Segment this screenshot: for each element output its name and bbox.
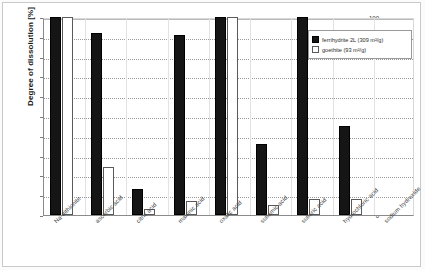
bar-group <box>209 19 250 215</box>
bar <box>62 17 73 215</box>
y-axis-title: Degree of dissolution [%] <box>26 0 35 137</box>
legend-label-goethite: goethite (93 m²/g) <box>322 47 366 53</box>
bar <box>132 189 143 215</box>
legend-item: ferrihydrite 2L (309 m²/g) <box>312 35 408 44</box>
bar <box>227 17 238 215</box>
chart-legend: ferrihydrite 2L (309 m²/g) goethite (93 … <box>308 30 412 59</box>
bar <box>256 144 267 215</box>
legend-swatch-goethite <box>312 46 319 53</box>
legend-label-ferrihydrite: ferrihydrite 2L (309 m²/g) <box>322 37 383 43</box>
chart-root: Degree of dissolution [%] 01020304050607… <box>0 0 425 270</box>
bar <box>339 126 350 215</box>
bar <box>50 17 61 215</box>
bar-group <box>85 19 126 215</box>
y-tick-mark <box>40 216 43 217</box>
bar <box>174 35 185 215</box>
bar-group <box>44 19 85 215</box>
bar <box>297 17 308 215</box>
bar-group <box>168 19 209 215</box>
legend-swatch-ferrihydrite <box>312 36 319 43</box>
bar <box>215 17 226 215</box>
bar-group <box>250 19 291 215</box>
legend-item: goethite (93 m²/g) <box>312 45 408 54</box>
bar <box>91 33 102 215</box>
bar-group <box>126 19 167 215</box>
